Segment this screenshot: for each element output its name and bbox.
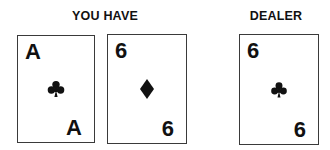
card-rank-top: A (25, 41, 41, 63)
club-icon (47, 80, 65, 98)
card-rank-bottom: 6 (294, 119, 306, 141)
card-rank-top: 6 (247, 40, 259, 62)
card-rank-bottom: A (66, 117, 82, 139)
player-card-1: A A (17, 35, 95, 143)
player-card-2: 6 6 (107, 34, 187, 144)
player-hand-label: YOU HAVE (60, 9, 150, 23)
dealer-card-1: 6 6 (239, 34, 319, 145)
card-rank-top: 6 (115, 40, 127, 62)
card-rank-bottom: 6 (162, 118, 174, 140)
club-icon (271, 81, 288, 98)
diamond-icon (140, 79, 154, 99)
dealer-hand-label: DEALER (236, 9, 316, 23)
